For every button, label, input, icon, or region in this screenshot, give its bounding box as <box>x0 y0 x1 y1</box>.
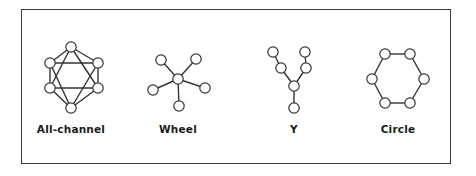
label-wheel: Wheel <box>128 123 228 135</box>
node-circle-icon <box>419 74 429 84</box>
node-circle-icon <box>380 98 390 108</box>
network-all-channel <box>45 42 103 113</box>
node-circle-icon <box>66 103 76 113</box>
node-circle-icon <box>289 103 299 113</box>
network-wheel <box>148 54 210 111</box>
node-circle-icon <box>300 47 310 57</box>
node-circle-icon <box>289 81 299 91</box>
node-circle-icon <box>268 47 278 57</box>
network-diagrams <box>0 0 476 176</box>
node-circle-icon <box>301 63 311 73</box>
node-circle-icon <box>66 42 76 52</box>
node-circle-icon <box>191 54 201 64</box>
node-circle-icon <box>45 83 55 93</box>
node-circle-icon <box>148 85 158 95</box>
node-circle-icon <box>200 83 210 93</box>
node-circle-icon <box>45 58 55 68</box>
node-circle-icon <box>405 49 415 59</box>
edge <box>71 47 98 88</box>
label-circle: Circle <box>348 123 448 135</box>
node-circle-icon <box>380 49 390 59</box>
node-circle-icon <box>276 63 286 73</box>
node-circle-icon <box>93 83 103 93</box>
label-y: Y <box>244 123 344 135</box>
node-circle-icon <box>367 74 377 84</box>
node-circle-icon <box>405 98 415 108</box>
label-all-channel: All-channel <box>21 123 121 135</box>
network-circle <box>367 49 429 108</box>
node-circle-icon <box>93 58 103 68</box>
node-circle-icon <box>174 101 184 111</box>
node-circle-icon <box>156 55 166 65</box>
node-circle-icon <box>173 74 183 84</box>
network-y <box>268 47 311 113</box>
